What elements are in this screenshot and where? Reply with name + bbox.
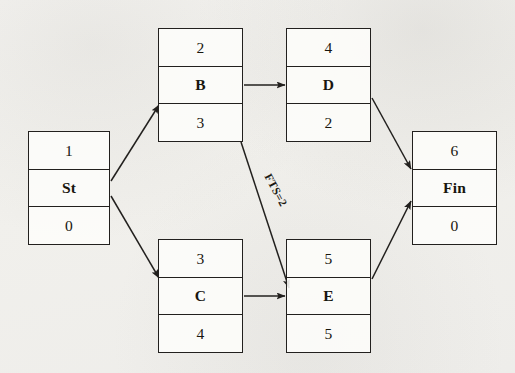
node-e-duration: 5: [287, 314, 370, 352]
edge-d-finish: [372, 98, 411, 169]
node-d-label: D: [287, 66, 370, 104]
node-b-duration: 3: [159, 103, 242, 141]
node-finish-duration: 0: [413, 206, 496, 244]
node-start-label: St: [29, 169, 109, 207]
node-start-duration: 0: [29, 206, 109, 244]
node-b-label: B: [159, 66, 242, 104]
node-start[interactable]: 1 St 0: [28, 131, 110, 245]
edge-start-b: [111, 105, 159, 181]
node-start-number: 1: [29, 132, 109, 169]
node-finish-label: Fin: [413, 169, 496, 207]
node-c[interactable]: 3 C 4: [158, 239, 243, 353]
edge-e-finish: [372, 201, 411, 279]
node-d-duration: 2: [287, 103, 370, 141]
edge-b-e: [241, 142, 289, 288]
node-e-label: E: [287, 277, 370, 315]
node-e[interactable]: 5 E 5: [286, 239, 371, 353]
node-b-number: 2: [159, 29, 242, 66]
node-d-number: 4: [287, 29, 370, 66]
node-finish-number: 6: [413, 132, 496, 169]
node-c-duration: 4: [159, 314, 242, 352]
network-diagram: 1 St 0 2 B 3 4 D 2 3 C 4 5 E 5 6 Fin 0 F…: [0, 0, 515, 373]
node-finish[interactable]: 6 Fin 0: [412, 131, 497, 245]
node-e-number: 5: [287, 240, 370, 277]
node-b[interactable]: 2 B 3: [158, 28, 243, 142]
edge-start-c: [111, 196, 159, 278]
edge-label-fts: FTS=2: [262, 172, 289, 209]
node-d[interactable]: 4 D 2: [286, 28, 371, 142]
node-c-label: C: [159, 277, 242, 315]
node-c-number: 3: [159, 240, 242, 277]
